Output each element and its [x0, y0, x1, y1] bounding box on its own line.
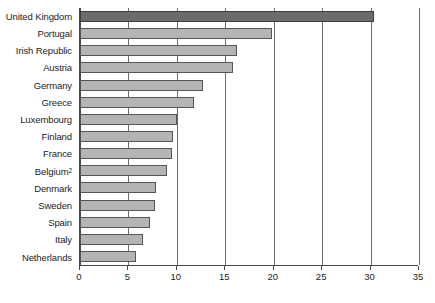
bar[interactable] [80, 62, 233, 73]
category-label: United Kingdom [0, 8, 76, 25]
category-label: Austria [0, 60, 76, 77]
bar[interactable] [80, 217, 150, 228]
axis-tick-label: 30 [364, 272, 375, 282]
gridline [419, 8, 420, 265]
category-label: Netherlands [0, 249, 76, 266]
category-label: Luxembourg [0, 111, 76, 128]
bar[interactable] [80, 251, 136, 262]
bar-row [80, 77, 418, 94]
axis-tick-label: 5 [125, 272, 130, 282]
bar[interactable] [80, 114, 177, 125]
bar-row [80, 214, 418, 231]
bar[interactable] [80, 165, 167, 176]
axis-tick [176, 266, 177, 270]
bar[interactable] [80, 11, 374, 22]
bar[interactable] [80, 97, 194, 108]
bar[interactable] [80, 80, 203, 91]
axis-tick [273, 266, 274, 270]
bar-row [80, 8, 418, 25]
axis-tick [127, 266, 128, 270]
bar-row [80, 128, 418, 145]
axis-tick-label: 15 [219, 272, 230, 282]
bar-row [80, 94, 418, 111]
axis-tick-label: 0 [76, 272, 81, 282]
bar-row [80, 162, 418, 179]
bar[interactable] [80, 148, 172, 159]
bar-row [80, 59, 418, 76]
axis-tick [418, 266, 419, 270]
bar-row [80, 231, 418, 248]
category-label: Irish Republic [0, 42, 76, 59]
axis-tick-label: 25 [316, 272, 327, 282]
category-label: Sweden [0, 197, 76, 214]
category-label: France [0, 146, 76, 163]
bar-row [80, 197, 418, 214]
category-label: Denmark [0, 180, 76, 197]
bar-row [80, 179, 418, 196]
category-axis: United KingdomPortugalIrish RepublicAust… [0, 8, 76, 266]
bar-row [80, 111, 418, 128]
plot-area [79, 8, 418, 266]
category-label: Portugal [0, 25, 76, 42]
axis-tick-label: 35 [413, 272, 424, 282]
axis-tick [370, 266, 371, 270]
category-label: Finland [0, 128, 76, 145]
category-label: Spain [0, 214, 76, 231]
axis-tick [224, 266, 225, 270]
bar-row [80, 42, 418, 59]
bar-series [80, 8, 418, 265]
axis-tick [321, 266, 322, 270]
axis-tick-label: 10 [171, 272, 182, 282]
category-label: Greece [0, 94, 76, 111]
category-label: Belgium2 [0, 163, 76, 180]
bar[interactable] [80, 131, 173, 142]
bar[interactable] [80, 45, 237, 56]
bar-chart: United KingdomPortugalIrish RepublicAust… [0, 0, 435, 303]
bar[interactable] [80, 200, 155, 211]
bar-row [80, 248, 418, 265]
axis-tick-label: 20 [267, 272, 278, 282]
bar-row [80, 145, 418, 162]
bar[interactable] [80, 234, 143, 245]
bar[interactable] [80, 28, 272, 39]
category-label: Italy [0, 232, 76, 249]
axis-tick [79, 266, 80, 270]
bar-row [80, 25, 418, 42]
value-axis: 05101520253035 [79, 266, 418, 290]
category-label: Germany [0, 77, 76, 94]
bar[interactable] [80, 182, 156, 193]
